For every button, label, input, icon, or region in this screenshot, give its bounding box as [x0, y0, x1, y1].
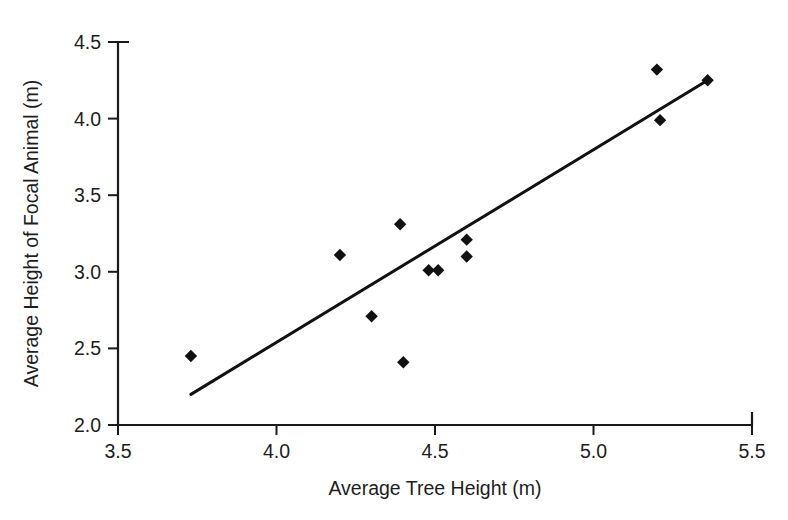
y-tick-label-0: 2.0	[74, 414, 101, 436]
x-tick-label-3: 5.0	[580, 440, 607, 462]
x-tick-label-2: 4.5	[421, 440, 448, 462]
y-tick-label-3: 3.5	[74, 184, 101, 206]
data-point-3	[394, 218, 406, 230]
plot-canvas: 2.02.53.03.54.04.53.54.04.55.05.5Average…	[0, 0, 788, 520]
y-tick-label-1: 2.5	[74, 337, 101, 359]
x-tick-label-1: 4.0	[263, 440, 290, 462]
scatter-plot-figure: 2.02.53.03.54.04.53.54.04.55.05.5Average…	[0, 0, 788, 520]
data-point-7	[461, 233, 473, 245]
data-point-6	[432, 264, 444, 276]
data-point-10	[654, 114, 666, 126]
data-point-8	[461, 250, 473, 262]
x-tick-label-4: 5.5	[738, 440, 765, 462]
data-point-9	[651, 63, 663, 75]
data-point-1	[334, 249, 346, 261]
y-tick-label-4: 4.0	[74, 108, 101, 130]
y-tick-label-5: 4.5	[74, 31, 101, 53]
y-tick-label-2: 3.0	[74, 261, 101, 283]
data-point-0	[185, 350, 197, 362]
axis-frame	[118, 42, 752, 425]
data-point-4	[397, 356, 409, 368]
data-point-2	[365, 310, 377, 322]
y-axis-title: Average Height of Focal Animal (m)	[20, 80, 42, 387]
x-tick-label-0: 3.5	[104, 440, 131, 462]
x-axis-title: Average Tree Height (m)	[328, 477, 541, 499]
regression-line	[191, 80, 708, 394]
